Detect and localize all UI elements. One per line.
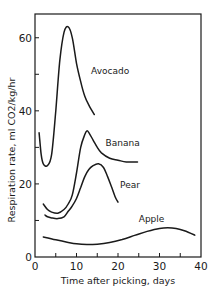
series-label-apple: Apple (139, 214, 165, 224)
x-tick-label: 0 (32, 260, 39, 272)
x-tick-label: 40 (194, 260, 207, 272)
series-label-pear: Pear (120, 180, 140, 190)
y-tick-label: 0 (25, 251, 32, 263)
y-tick-label: 60 (19, 32, 32, 44)
x-axis-title: Time after picking, days (60, 275, 175, 286)
x-tick-label: 10 (70, 260, 83, 272)
series-labels: AvocadoBananaPearApple (91, 66, 165, 224)
y-tick-label: 40 (19, 105, 32, 117)
series-line-avocado (39, 26, 94, 166)
respiration-rate-chart: 010203040 0204060 AvocadoBananaPearApple… (0, 0, 217, 298)
series-line-apple (43, 228, 195, 245)
series-label-avocado: Avocado (91, 66, 130, 76)
x-axis-ticks (56, 253, 181, 257)
series-label-banana: Banana (106, 138, 140, 148)
x-tick-label: 20 (111, 260, 124, 272)
y-axis-title: Respiration rate, ml CO2/kg/hr (6, 77, 17, 222)
series-lines (39, 26, 195, 244)
y-tick-label: 20 (19, 178, 32, 190)
plot-frame (35, 14, 201, 257)
x-axis-tick-labels: 010203040 (32, 260, 208, 272)
x-tick-label: 30 (153, 260, 166, 272)
series-line-pear (45, 164, 118, 219)
y-axis-tick-labels: 0204060 (19, 32, 32, 263)
